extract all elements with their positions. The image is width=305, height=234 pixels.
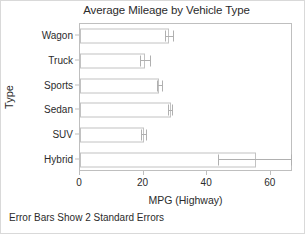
y-axis-tick-label: Hybrid (44, 153, 73, 164)
chart-title-text: Average Mileage by Vehicle Type (83, 4, 250, 16)
error-bar-whisker (218, 159, 292, 160)
y-axis-tick-mark (75, 84, 79, 85)
plot-area (80, 24, 291, 170)
chart-figure: Average Mileage by Vehicle Type WagonTru… (0, 0, 305, 234)
bar[interactable] (80, 53, 145, 68)
x-axis-tick-mark (79, 171, 80, 175)
x-axis-tick-mark (143, 171, 144, 175)
chart-title: Average Mileage by Vehicle Type (1, 4, 305, 16)
error-bar (168, 105, 174, 116)
error-bar-cap-left (140, 55, 141, 66)
bar[interactable] (80, 78, 159, 93)
y-axis-tick-label: SUV (52, 129, 73, 140)
error-bar-cap-right (291, 154, 292, 165)
y-axis-tick-mark (75, 109, 79, 110)
error-bar (157, 80, 163, 91)
plot-frame (79, 23, 292, 171)
y-axis-tick-mark (75, 60, 79, 61)
x-axis-tick-label: 20 (137, 177, 148, 188)
error-bar-cap-right (162, 80, 163, 91)
bar[interactable] (80, 127, 144, 142)
error-bar-cap-right (150, 55, 151, 66)
error-bar (218, 154, 292, 165)
error-bar (140, 55, 150, 66)
error-bar-cap-right (146, 129, 147, 140)
bar-row (80, 147, 293, 172)
x-axis-tick-mark (206, 171, 207, 175)
error-bar-cap-left (141, 129, 142, 140)
error-bar (165, 31, 174, 42)
x-axis-tick-label: 40 (201, 177, 212, 188)
bar-row (80, 98, 293, 123)
y-axis-tick-label: Wagon (42, 30, 73, 41)
x-axis-title: MPG (Highway) (79, 194, 292, 206)
y-axis-tick-label: Sedan (44, 104, 73, 115)
x-axis-tick-label: 0 (76, 177, 82, 188)
error-bar (141, 129, 147, 140)
bar-row (80, 24, 293, 49)
y-axis-tick-mark (75, 35, 79, 36)
x-axis-tick-mark (270, 171, 271, 175)
error-bar-cap-left (168, 105, 169, 116)
error-bar-cap-left (157, 80, 158, 91)
error-bar-cap-left (165, 31, 166, 42)
y-axis-tick-mark (75, 158, 79, 159)
y-axis-tick-mark (75, 134, 79, 135)
y-axis-title: Type (3, 85, 15, 109)
error-bar-cap-left (218, 154, 219, 165)
error-bar-cap-right (172, 105, 173, 116)
bar-row (80, 123, 293, 148)
error-bar-cap-right (173, 31, 174, 42)
x-axis-tick-label: 60 (264, 177, 275, 188)
y-axis-tick-label: Truck (48, 55, 73, 66)
bar[interactable] (80, 103, 171, 118)
bar-row (80, 73, 293, 98)
y-axis-tick-label: Sports (44, 79, 73, 90)
bar[interactable] (80, 29, 169, 44)
chart-footnote: Error Bars Show 2 Standard Errors (9, 212, 164, 223)
bar-row (80, 49, 293, 74)
